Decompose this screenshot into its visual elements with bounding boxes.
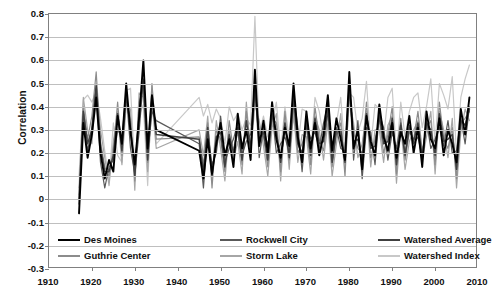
legend-label: Guthrie Center <box>84 250 151 261</box>
y-tick-mark <box>45 176 49 177</box>
legend-swatch <box>220 239 242 241</box>
gridline <box>49 60 476 61</box>
y-tick-mark <box>45 37 49 38</box>
legend-label: Watershed Average <box>404 234 492 245</box>
legend-item[interactable]: Rockwell City <box>220 234 308 245</box>
x-tick-label: 1970 <box>282 276 328 287</box>
gridline <box>49 153 476 154</box>
y-tick-mark <box>45 60 49 61</box>
gridline <box>49 37 476 38</box>
legend-item[interactable]: Guthrie Center <box>58 250 151 261</box>
y-tick-label: 0.5 <box>0 77 44 88</box>
y-tick-label: -0.2 <box>0 239 44 250</box>
legend-label: Watershed Index <box>404 250 480 261</box>
y-tick-label: -0.3 <box>0 263 44 274</box>
chart-container: Correlation 0.80.70.60.50.40.30.20.10-0.… <box>0 0 493 308</box>
chart-legend: Des MoinesGuthrie CenterRockwell CitySto… <box>48 232 477 268</box>
legend-item[interactable]: Des Moines <box>58 234 137 245</box>
x-tick-label: 1960 <box>240 276 286 287</box>
gridline <box>49 176 476 177</box>
y-tick-mark <box>45 223 49 224</box>
y-tick-label: 0 <box>0 193 44 204</box>
legend-item[interactable]: Watershed Index <box>378 250 480 261</box>
legend-label: Storm Lake <box>246 250 298 261</box>
plot-area <box>48 13 477 268</box>
legend-swatch <box>220 255 242 257</box>
y-tick-label: 0.4 <box>0 100 44 111</box>
series-lines <box>49 14 478 269</box>
legend-swatch <box>58 239 80 241</box>
x-tick-label: 1940 <box>154 276 200 287</box>
gridline <box>49 130 476 131</box>
y-tick-label: 0.1 <box>0 170 44 181</box>
x-tick-label: 1990 <box>368 276 414 287</box>
y-tick-mark <box>45 153 49 154</box>
y-tick-label: 0.6 <box>0 54 44 65</box>
y-tick-label: 0.3 <box>0 123 44 134</box>
y-tick-label: 0.2 <box>0 147 44 158</box>
gridline <box>49 84 476 85</box>
y-tick-label: 0.8 <box>0 8 44 19</box>
y-tick-mark <box>45 269 49 270</box>
legend-label: Des Moines <box>84 234 137 245</box>
legend-swatch <box>378 255 400 257</box>
x-tick-label: 2010 <box>454 276 493 287</box>
legend-item[interactable]: Watershed Average <box>378 234 492 245</box>
x-tick-label: 1920 <box>68 276 114 287</box>
x-tick-label: 1910 <box>25 276 71 287</box>
series-line <box>79 16 469 185</box>
legend-swatch <box>378 239 400 241</box>
y-tick-label: -0.1 <box>0 216 44 227</box>
x-tick-label: 1980 <box>325 276 371 287</box>
legend-label: Rockwell City <box>246 234 308 245</box>
x-tick-label: 1950 <box>197 276 243 287</box>
y-tick-label: 0.7 <box>0 31 44 42</box>
legend-swatch <box>58 255 80 257</box>
y-tick-mark <box>45 14 49 15</box>
y-tick-mark <box>45 199 49 200</box>
y-tick-mark <box>45 107 49 108</box>
gridline <box>49 199 476 200</box>
y-tick-mark <box>45 130 49 131</box>
gridline <box>49 223 476 224</box>
x-tick-label: 1930 <box>111 276 157 287</box>
gridline <box>49 107 476 108</box>
y-axis-tick-labels: 0.80.70.60.50.40.30.20.10-0.1-0.2-0.3 <box>0 0 44 308</box>
y-tick-mark <box>45 84 49 85</box>
legend-item[interactable]: Storm Lake <box>220 250 298 261</box>
x-tick-label: 2000 <box>411 276 457 287</box>
